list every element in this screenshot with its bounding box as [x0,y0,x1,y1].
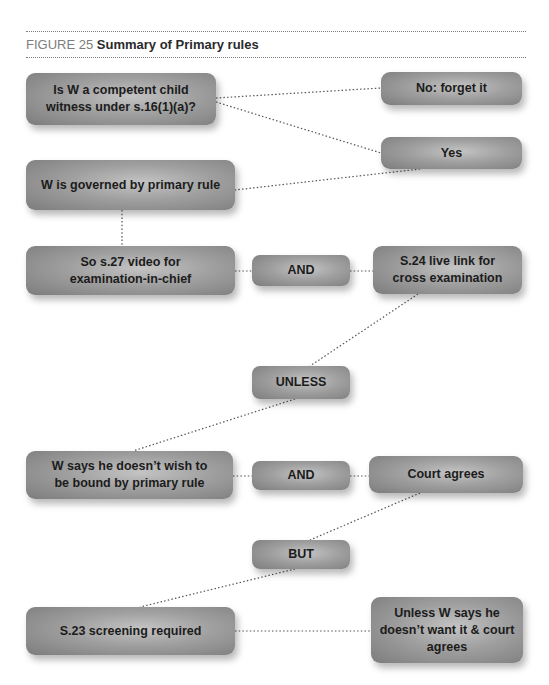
connector-yes-governed [235,169,420,190]
connector-unless-wsays [133,399,295,451]
connector-court-but [310,493,420,540]
node-competent-question: Is W a competent child witness under s.1… [26,73,216,125]
node-unless-w-says: Unless W says he doesn’t want it & court… [371,597,523,663]
node-yes: Yes [381,137,522,169]
node-s27-video: So s.27 video for examination-in-chief [26,246,235,295]
node-s23-screening: S.23 screening required [26,607,235,655]
node-court-agrees: Court agrees [369,456,523,493]
node-but: BUT [252,540,350,569]
node-s24-live-link: S.24 live link for cross examination [373,246,522,294]
node-and-1: AND [252,255,350,286]
connector-question-no [216,88,381,98]
connector-s24-unless [310,294,418,366]
node-and-2: AND [252,461,350,490]
connector-question-yes [216,102,381,153]
node-unless: UNLESS [252,366,350,399]
node-governed-by-primary-rule: W is governed by primary rule [26,160,235,210]
node-no-forget-it: No: forget it [381,72,522,105]
node-w-says-not-bound: W says he doesn’t wish to be bound by pr… [26,451,233,499]
connector-but-s23 [140,569,295,607]
